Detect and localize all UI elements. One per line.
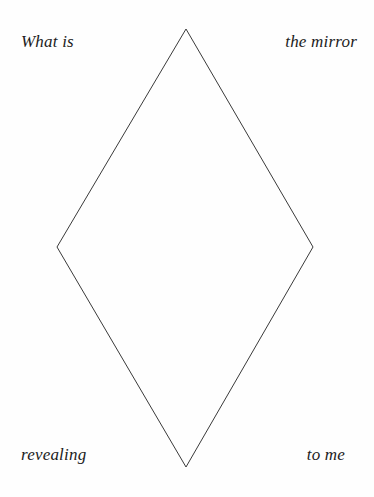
label-top-left: What is — [21, 33, 74, 50]
diagram-canvas: What is the mirror revealing to me — [0, 0, 374, 497]
label-bottom-right: to me — [307, 446, 345, 463]
diamond-outline — [57, 29, 313, 467]
label-bottom-left: revealing — [21, 446, 86, 463]
label-top-right: the mirror — [285, 33, 357, 50]
diamond-shape-svg — [0, 0, 374, 497]
